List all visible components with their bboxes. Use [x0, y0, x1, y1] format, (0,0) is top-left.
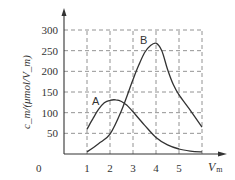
- x-tick-label: 4: [153, 162, 159, 174]
- data-curves: [87, 43, 202, 152]
- y-axis-arrow-icon: [62, 8, 67, 16]
- curve-b-label: B: [140, 34, 147, 46]
- y-tick-label: 250: [42, 45, 59, 57]
- x-axis-label: Vm: [208, 160, 223, 174]
- x-tick-label: 1: [84, 162, 90, 174]
- x-tick-label: 3: [130, 162, 136, 174]
- x-tick-label: 5: [176, 162, 182, 174]
- y-tick-label: 200: [42, 65, 59, 77]
- origin-label: 0: [36, 162, 42, 174]
- y-tick-label: 100: [42, 107, 59, 119]
- chart: 50100150200250300 12345 0 c_m/(μmol/V_m)…: [0, 0, 235, 180]
- x-axis-arrow-icon: [218, 152, 227, 157]
- grid-lines: [64, 30, 202, 154]
- curve-a-label: A: [92, 95, 100, 107]
- curve-a: [87, 100, 202, 152]
- curve-b: [87, 43, 202, 152]
- y-tick-labels: 50100150200250300: [42, 24, 59, 139]
- y-tick-label: 150: [42, 86, 59, 98]
- y-axis-label: c_m/(μmol/V_m): [20, 55, 33, 129]
- x-tick-labels: 12345: [84, 162, 182, 174]
- y-tick-label: 300: [42, 24, 59, 36]
- x-tick-label: 2: [107, 162, 113, 174]
- x-axis-label-sub: m: [216, 165, 223, 174]
- y-tick-label: 50: [47, 127, 59, 139]
